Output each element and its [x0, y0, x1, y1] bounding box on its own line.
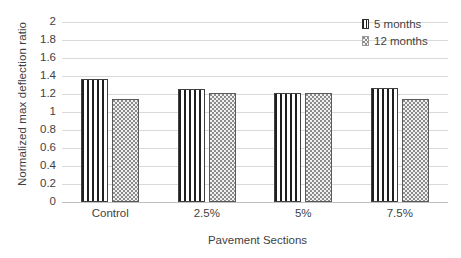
bar: [402, 99, 429, 202]
legend-swatch-icon: [362, 19, 369, 29]
bar-group: [62, 22, 159, 202]
x-tick-label: 7.5%: [352, 207, 449, 219]
legend-item: 5 months: [362, 16, 458, 31]
bar-chart: Normalized max deflection ratio 21.81.61…: [0, 0, 461, 258]
y-tick-label: 0: [0, 196, 56, 208]
bar: [81, 79, 108, 202]
bar-group: [255, 22, 352, 202]
x-axis-category-labels: Control2.5%5%7.5%: [62, 207, 448, 227]
bar: [178, 89, 205, 202]
x-tick-label: 2.5%: [159, 207, 256, 219]
y-tick-label: 0.4: [0, 160, 56, 172]
legend-swatch-icon: [362, 36, 369, 46]
y-tick-label: 1.2: [0, 88, 56, 100]
x-tick-label: Control: [62, 207, 159, 219]
y-tick-label: 0.6: [0, 142, 56, 154]
bar: [274, 93, 301, 202]
x-tick-label: 5%: [255, 207, 352, 219]
y-tick-label: 2: [0, 16, 56, 28]
bar: [305, 93, 332, 202]
y-tick-label: 1.6: [0, 52, 56, 64]
axis-baseline: [62, 202, 448, 203]
legend-label: 12 months: [374, 35, 428, 47]
legend-item: 12 months: [362, 33, 458, 48]
y-tick-label: 1.8: [0, 34, 56, 46]
legend-label: 5 months: [374, 18, 421, 30]
bar: [371, 88, 398, 202]
y-tick-label: 1: [0, 106, 56, 118]
bar: [209, 93, 236, 202]
chart-legend: 5 months12 months: [362, 16, 458, 50]
y-tick-label: 0.8: [0, 124, 56, 136]
y-tick-label: 0.2: [0, 178, 56, 190]
bar: [112, 99, 139, 203]
bar-group: [159, 22, 256, 202]
y-tick-label: 1.4: [0, 70, 56, 82]
x-axis-title: Pavement Sections: [60, 234, 455, 246]
